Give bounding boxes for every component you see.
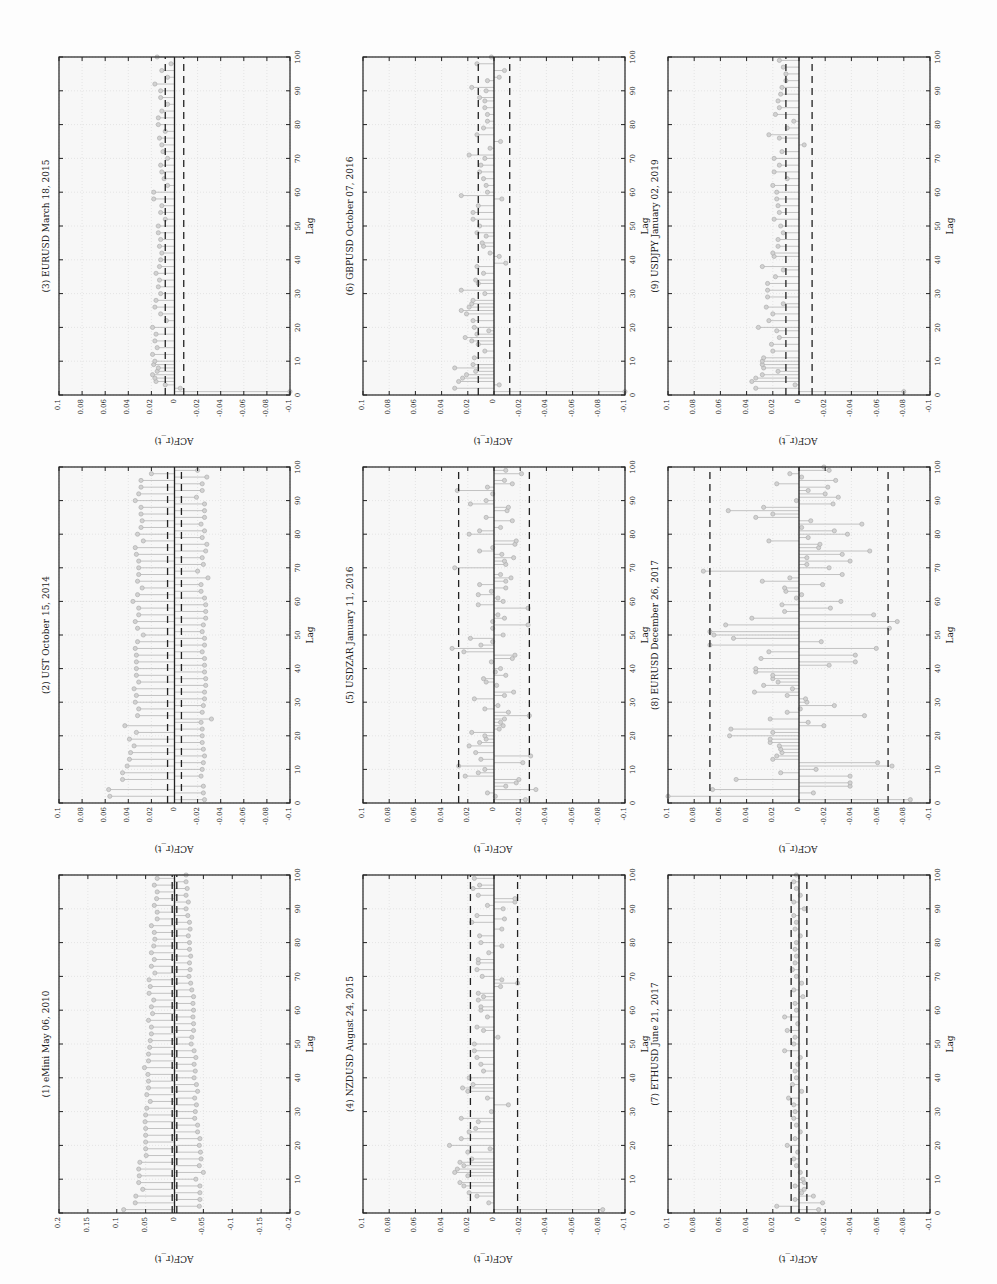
x-tick-label: 100 (294, 457, 302, 477)
x-tick-label: 50 (629, 625, 637, 645)
x-tick-label: 0 (934, 793, 942, 813)
x-tick-label: 20 (629, 1135, 637, 1155)
y-tick-label: -0.02 (515, 807, 523, 839)
y-tick-label: 0.04 (742, 807, 750, 839)
x-axis-label: Lag (945, 57, 955, 395)
x-axis-label: Lag (305, 875, 315, 1213)
y-axis-label: ACF(r_t) (154, 844, 193, 854)
y-tick-label: -0.1 (620, 807, 628, 839)
x-tick-label: 90 (294, 491, 302, 511)
y-tick-label: 0.06 (100, 807, 108, 839)
x-tick-label: 90 (934, 81, 942, 101)
x-tick-label: 40 (629, 250, 637, 270)
y-tick-label: -0.04 (846, 807, 854, 839)
y-tick-label: 0 (170, 807, 178, 839)
x-tick-label: 30 (629, 1102, 637, 1122)
x-tick-label: 60 (294, 182, 302, 202)
y-tick-label: -0.04 (541, 807, 549, 839)
acf-stem-plot (642, 39, 962, 431)
y-tick-label: -0.06 (873, 399, 881, 431)
x-tick-label: 60 (934, 182, 942, 202)
x-tick-label: 70 (629, 558, 637, 578)
x-tick-label: 70 (294, 966, 302, 986)
x-tick-label: 70 (294, 148, 302, 168)
acf-stem-plot (337, 449, 657, 839)
y-tick-label: 0.08 (689, 807, 697, 839)
x-tick-label: 80 (934, 115, 942, 135)
y-tick-label: 0.06 (715, 1217, 723, 1249)
x-tick-label: 40 (294, 659, 302, 679)
y-tick-label: 0 (489, 399, 497, 431)
x-tick-label: 80 (934, 933, 942, 953)
y-tick-label: -0.08 (594, 1217, 602, 1249)
x-tick-label: 60 (294, 591, 302, 611)
x-tick-label: 60 (629, 182, 637, 202)
y-tick-label: 0 (489, 1217, 497, 1249)
x-tick-label: 70 (629, 966, 637, 986)
x-tick-label: 50 (934, 216, 942, 236)
acf-stem-plot (33, 39, 322, 431)
x-axis-label: Lag (305, 57, 315, 395)
x-tick-label: 20 (934, 317, 942, 337)
x-tick-label: 40 (934, 659, 942, 679)
y-tick-label: -0.08 (594, 807, 602, 839)
y-tick-label: 0.06 (410, 807, 418, 839)
x-tick-label: 30 (934, 692, 942, 712)
x-tick-label: 80 (294, 115, 302, 135)
x-tick-label: 0 (629, 1203, 637, 1223)
x-tick-label: 40 (294, 1068, 302, 1088)
y-tick-label: 0.08 (689, 399, 697, 431)
y-tick-label: -0.02 (515, 1217, 523, 1249)
y-tick-label: 0.05 (141, 1217, 149, 1249)
x-tick-label: 100 (629, 457, 637, 477)
acf-stem-plot (642, 449, 962, 839)
y-tick-label: -0.08 (899, 399, 907, 431)
y-tick-label: 0 (489, 807, 497, 839)
y-tick-label: 0.06 (715, 807, 723, 839)
x-tick-label: 0 (934, 1203, 942, 1223)
y-axis-label: ACF(r_t) (473, 844, 512, 854)
x-tick-label: 50 (629, 216, 637, 236)
y-tick-label: -0.02 (193, 807, 201, 839)
x-tick-label: 80 (629, 524, 637, 544)
y-tick-label: -0.02 (820, 1217, 828, 1249)
y-axis-label: ACF(r_t) (154, 1254, 193, 1264)
x-tick-label: 60 (934, 591, 942, 611)
x-tick-label: 20 (934, 1135, 942, 1155)
x-tick-label: 20 (934, 726, 942, 746)
y-tick-label: -0.04 (216, 807, 224, 839)
y-tick-label: 0 (794, 1217, 802, 1249)
y-tick-label: -0.06 (873, 807, 881, 839)
x-axis-label: Lag (945, 467, 955, 803)
x-tick-label: 20 (629, 317, 637, 337)
y-tick-label: 0.06 (410, 1217, 418, 1249)
y-tick-label: 0.02 (463, 399, 471, 431)
y-tick-label: 0.1 (112, 1217, 120, 1249)
x-tick-label: 0 (294, 793, 302, 813)
y-tick-label: 0.08 (77, 399, 85, 431)
y-tick-label: -0.06 (873, 1217, 881, 1249)
x-tick-label: 50 (294, 1034, 302, 1054)
y-axis-label: ACF(r_t) (473, 436, 512, 446)
y-tick-label: 0 (794, 399, 802, 431)
y-tick-label: 0.02 (146, 807, 154, 839)
x-tick-label: 50 (294, 216, 302, 236)
y-tick-label: -0.04 (541, 1217, 549, 1249)
x-tick-label: 10 (934, 351, 942, 371)
acf-stem-plot (642, 857, 962, 1249)
y-tick-label: -0.06 (239, 807, 247, 839)
x-tick-label: 0 (934, 385, 942, 405)
y-tick-label: 0.08 (384, 1217, 392, 1249)
y-tick-label: 0 (794, 807, 802, 839)
y-tick-label: -0.02 (820, 807, 828, 839)
x-tick-label: 50 (934, 625, 942, 645)
y-tick-label: -0.08 (594, 399, 602, 431)
y-tick-label: 0.04 (742, 399, 750, 431)
y-tick-label: 0.1 (358, 807, 366, 839)
y-tick-label: -0.15 (256, 1217, 264, 1249)
x-tick-label: 30 (294, 1102, 302, 1122)
x-tick-label: 90 (629, 491, 637, 511)
y-tick-label: 0.02 (768, 1217, 776, 1249)
y-tick-label: 0.02 (146, 399, 154, 431)
x-tick-label: 90 (934, 899, 942, 919)
